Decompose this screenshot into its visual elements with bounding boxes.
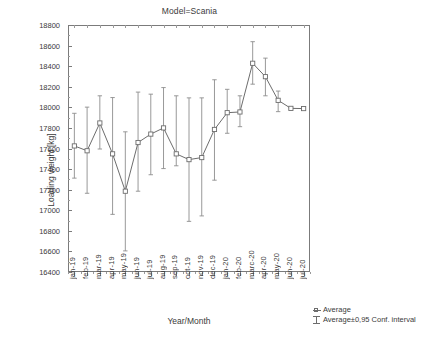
y-minor-tick bbox=[68, 35, 70, 36]
x-tick-label: oct-19 bbox=[183, 257, 192, 279]
top-tick-mark bbox=[74, 25, 75, 28]
x-tick-label: jul-19 bbox=[145, 259, 154, 279]
x-tick-label: jun-19 bbox=[132, 257, 141, 279]
y-tick-mark bbox=[68, 231, 72, 232]
y-tick-label: 18200 bbox=[0, 82, 60, 91]
x-minor-tick bbox=[234, 272, 235, 274]
top-tick-mark bbox=[189, 25, 190, 28]
y-tick-label: 17400 bbox=[0, 165, 60, 174]
y-minor-tick bbox=[68, 138, 70, 139]
x-tick-label: apr-20 bbox=[259, 256, 268, 279]
y-tick-mark bbox=[68, 128, 72, 129]
x-tick-label: nov-19 bbox=[196, 255, 205, 279]
top-tick-mark bbox=[214, 25, 215, 28]
x-tick-label: feb-19 bbox=[81, 257, 90, 279]
legend-item-average: Average bbox=[312, 305, 416, 315]
y-tick-mark bbox=[68, 210, 72, 211]
y-tick-label: 17200 bbox=[0, 185, 60, 194]
top-tick-mark bbox=[227, 25, 228, 28]
x-tick-label: aug-19 bbox=[158, 254, 167, 279]
plot-frame-bottom bbox=[68, 25, 310, 272]
chart-screenshot: Model=Scania Loading weight [kg] 1640016… bbox=[0, 0, 446, 340]
x-tick-label: jul-20 bbox=[298, 259, 307, 279]
top-tick-mark bbox=[265, 25, 266, 28]
x-minor-tick bbox=[285, 272, 286, 274]
x-minor-tick bbox=[183, 272, 184, 274]
y-tick-label: 18600 bbox=[0, 41, 60, 50]
x-minor-tick bbox=[144, 272, 145, 274]
y-tick-label: 18800 bbox=[0, 21, 60, 30]
legend-label-average: Average bbox=[323, 305, 351, 315]
y-tick-label: 16400 bbox=[0, 268, 60, 277]
top-tick-mark bbox=[240, 25, 241, 28]
x-tick-label: jun-20 bbox=[285, 257, 294, 279]
y-tick-mark bbox=[68, 251, 72, 252]
x-minor-tick bbox=[93, 272, 94, 274]
top-tick-mark bbox=[304, 25, 305, 28]
top-tick-mark bbox=[164, 25, 165, 28]
y-tick-label: 18000 bbox=[0, 103, 60, 112]
x-minor-tick bbox=[81, 272, 82, 274]
x-tick-label: may-19 bbox=[119, 253, 128, 279]
y-tick-mark bbox=[68, 107, 72, 108]
x-minor-tick bbox=[259, 272, 260, 274]
y-tick-label: 17600 bbox=[0, 144, 60, 153]
legend-label-conf-interval: Average±0,95 Conf. interval bbox=[323, 315, 416, 325]
y-tick-mark bbox=[68, 66, 72, 67]
top-tick-mark bbox=[176, 25, 177, 28]
y-tick-mark bbox=[68, 169, 72, 170]
y-tick-label: 16800 bbox=[0, 226, 60, 235]
x-minor-tick bbox=[157, 272, 158, 274]
x-tick-label: mar-19 bbox=[94, 254, 103, 279]
x-tick-label: jan-19 bbox=[68, 257, 77, 279]
top-tick-mark bbox=[278, 25, 279, 28]
x-tick-label: sep-19 bbox=[170, 255, 179, 279]
y-minor-tick bbox=[68, 221, 70, 222]
y-tick-mark bbox=[68, 46, 72, 47]
x-minor-tick bbox=[246, 272, 247, 274]
x-minor-tick bbox=[132, 272, 133, 274]
x-minor-tick bbox=[195, 272, 196, 274]
x-minor-tick bbox=[170, 272, 171, 274]
x-minor-tick bbox=[106, 272, 107, 274]
legend: Average Average±0,95 Conf. interval bbox=[312, 305, 416, 325]
top-tick-mark bbox=[253, 25, 254, 28]
y-tick-mark bbox=[68, 25, 72, 26]
y-tick-label: 18400 bbox=[0, 62, 60, 71]
y-minor-tick bbox=[68, 179, 70, 180]
y-minor-tick bbox=[68, 200, 70, 201]
x-axis-title: Year/Month bbox=[68, 316, 310, 326]
y-minor-tick bbox=[68, 56, 70, 57]
top-tick-mark bbox=[138, 25, 139, 28]
chart-title: Model=Scania bbox=[68, 6, 311, 16]
y-tick-mark bbox=[68, 190, 72, 191]
top-tick-mark bbox=[125, 25, 126, 28]
y-tick-label: 17800 bbox=[0, 123, 60, 132]
ibeam-icon bbox=[312, 315, 323, 325]
x-tick-label: feb-20 bbox=[234, 257, 243, 279]
x-minor-tick bbox=[208, 272, 209, 274]
y-minor-tick bbox=[68, 241, 70, 242]
y-tick-label: 16600 bbox=[0, 247, 60, 256]
x-tick-label: marc-20 bbox=[247, 250, 256, 279]
x-minor-tick bbox=[310, 272, 311, 274]
y-minor-tick bbox=[68, 76, 70, 77]
legend-item-conf-interval: Average±0,95 Conf. interval bbox=[312, 315, 416, 325]
y-tick-mark bbox=[68, 149, 72, 150]
x-minor-tick bbox=[119, 272, 120, 274]
y-tick-mark bbox=[68, 87, 72, 88]
x-tick-label: dec-19 bbox=[208, 255, 217, 279]
top-tick-mark bbox=[291, 25, 292, 28]
y-minor-tick bbox=[68, 97, 70, 98]
x-minor-tick bbox=[272, 272, 273, 274]
x-minor-tick bbox=[68, 272, 69, 274]
top-tick-mark bbox=[202, 25, 203, 28]
x-tick-label: jan-20 bbox=[221, 257, 230, 279]
x-minor-tick bbox=[221, 272, 222, 274]
top-tick-mark bbox=[151, 25, 152, 28]
y-minor-tick bbox=[68, 118, 70, 119]
x-tick-label: apr-19 bbox=[107, 256, 116, 279]
marker-square-icon bbox=[312, 305, 323, 315]
y-minor-tick bbox=[68, 159, 70, 160]
top-tick-mark bbox=[87, 25, 88, 28]
